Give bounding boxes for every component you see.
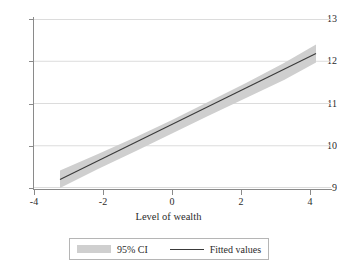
gridlines <box>34 20 331 188</box>
legend-label-fitted: Fitted values <box>210 244 261 255</box>
x-axis-line <box>33 189 332 190</box>
x-tick-label-minus4: -4 <box>19 197 49 207</box>
x-tick-label-minus2: -2 <box>88 197 118 207</box>
legend-swatch-line-icon <box>170 249 204 250</box>
legend-label-ci: 95% CI <box>117 244 148 255</box>
x-tick-label-0: 0 <box>157 197 187 207</box>
legend-entry-fitted: Fitted values <box>170 244 261 255</box>
fitted-line <box>60 54 316 180</box>
x-tick-mark-4 <box>310 190 311 195</box>
legend-swatch-ci-icon <box>77 245 111 253</box>
plot-area <box>34 19 331 188</box>
plot-svg <box>34 19 331 188</box>
chart-legend: 95% CI Fitted values <box>69 238 269 260</box>
x-tick-mark-0 <box>172 190 173 195</box>
chart-figure: 13 12 11 10 9 -4 -2 0 2 <box>0 0 337 269</box>
x-tick-mark-minus4 <box>34 190 35 195</box>
x-tick-mark-2 <box>241 190 242 195</box>
legend-entry-ci: 95% CI <box>77 244 148 255</box>
x-tick-label-2: 2 <box>226 197 256 207</box>
x-tick-label-4: 4 <box>295 197 325 207</box>
x-axis-title: Level of wealth <box>0 211 337 223</box>
x-tick-mark-minus2 <box>103 190 104 195</box>
